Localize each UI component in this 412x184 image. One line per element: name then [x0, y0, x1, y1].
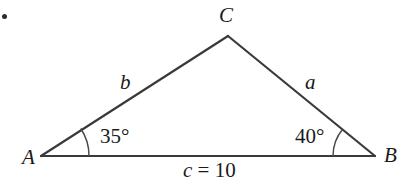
angle-label-b: 40° [295, 126, 324, 147]
side-label-b: b [120, 72, 131, 93]
triangle-figure: A B C b a c = 10 35° 40° [0, 0, 412, 184]
triangle-canvas [0, 0, 412, 184]
angle-label-a: 35° [100, 126, 129, 147]
side-label-a: a [305, 72, 316, 93]
angle-arc-b [333, 129, 343, 156]
vertex-label-a: A [22, 147, 35, 168]
vertex-label-c: C [219, 5, 233, 26]
side-label-c: c = 10 [183, 160, 236, 181]
side-b-line [41, 36, 228, 156]
angle-arc-a [81, 129, 89, 157]
vertex-label-b: B [384, 145, 397, 166]
